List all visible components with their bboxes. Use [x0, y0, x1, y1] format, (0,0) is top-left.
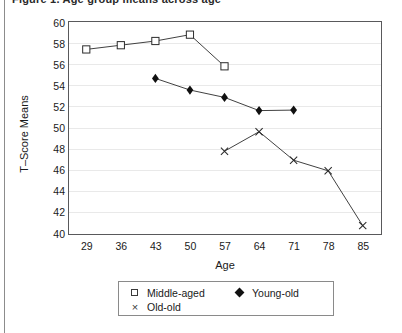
- legend-label: Young-old: [252, 287, 299, 299]
- y-tick-label: 60: [53, 17, 65, 29]
- chart-legend: Middle-aged × Old-old Young-old: [118, 281, 334, 316]
- open-square-icon: [129, 287, 141, 299]
- y-tick-label: 54: [53, 80, 65, 92]
- y-tick-label: 42: [53, 206, 65, 218]
- marker-open-square: [152, 37, 159, 44]
- figure-page: Figure 1. Age group means across age T–S…: [0, 0, 402, 333]
- y-tick-label: 52: [53, 101, 65, 113]
- y-tick-label: 44: [53, 185, 65, 197]
- marker-open-square: [186, 31, 193, 38]
- x-axis-title: Age: [68, 259, 382, 271]
- x-cross-icon: ×: [129, 301, 141, 313]
- marker-filled-diamond: [187, 85, 194, 94]
- x-tick-label: 64: [254, 240, 266, 252]
- legend-label: Old-old: [147, 301, 181, 313]
- y-axis-title: T–Score Means: [18, 79, 30, 189]
- marker-x-cross: [290, 157, 297, 164]
- y-tick-label: 46: [53, 164, 65, 176]
- series-middle-aged: [83, 31, 228, 70]
- marker-x-cross: [325, 167, 332, 174]
- y-tick-label: 50: [53, 122, 65, 134]
- marker-x-cross: [255, 128, 262, 135]
- series-line: [225, 132, 363, 226]
- marker-filled-diamond: [152, 74, 159, 83]
- x-tick-label: 43: [150, 240, 162, 252]
- marker-open-square: [83, 46, 90, 53]
- marker-x-cross: [359, 222, 366, 229]
- y-tick-label: 48: [53, 143, 65, 155]
- x-tick-label: 36: [115, 240, 127, 252]
- legend-item-young-old: Young-old: [234, 287, 299, 299]
- figure-title-clipped: Figure 1. Age group means across age: [12, 0, 342, 5]
- x-tick-label: 57: [219, 240, 231, 252]
- y-tick-label: 56: [53, 59, 65, 71]
- series-old-old: [221, 128, 366, 229]
- marker-filled-diamond: [221, 93, 228, 102]
- legend-item-old-old: × Old-old: [129, 301, 181, 313]
- x-tick-label: 29: [81, 240, 93, 252]
- x-tick-label: 85: [357, 240, 369, 252]
- marker-open-square: [221, 63, 228, 70]
- legend-label: Middle-aged: [147, 287, 205, 299]
- x-axis-tick-labels: 293643505764717885: [68, 240, 382, 254]
- data-series-layer: [69, 22, 380, 233]
- legend-item-middle-aged: Middle-aged: [129, 287, 205, 299]
- filled-diamond-icon: [234, 287, 246, 299]
- marker-filled-diamond: [256, 106, 263, 115]
- x-tick-label: 78: [323, 240, 335, 252]
- marker-open-square: [117, 42, 124, 49]
- y-axis-tick-labels: 4042444648505254565860: [40, 21, 65, 235]
- y-tick-label: 40: [53, 228, 65, 240]
- marker-x-cross: [221, 148, 228, 155]
- x-tick-label: 50: [185, 240, 197, 252]
- x-tick-label: 71: [288, 240, 300, 252]
- page-border-line: [4, 0, 5, 333]
- y-tick-label: 58: [53, 38, 65, 50]
- marker-filled-diamond: [290, 105, 297, 114]
- series-young-old: [152, 74, 297, 115]
- plot-area: [68, 21, 382, 235]
